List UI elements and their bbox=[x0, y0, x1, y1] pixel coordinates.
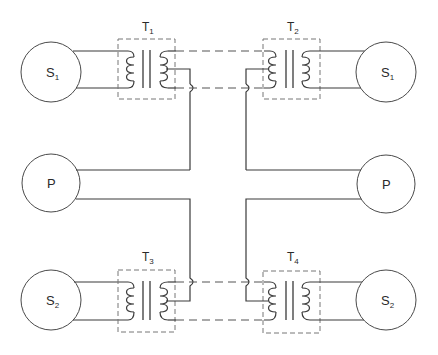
center-tap-wire bbox=[166, 69, 190, 84]
middle-row: P P bbox=[22, 154, 415, 263]
primary-coil-icon bbox=[269, 288, 277, 312]
transformer-t2: T2 bbox=[263, 20, 320, 99]
wire bbox=[246, 199, 362, 263]
transformer-label: T1 bbox=[142, 20, 154, 36]
secondary-coil-icon bbox=[302, 288, 310, 312]
source-label: P bbox=[382, 177, 391, 192]
wire bbox=[76, 199, 190, 263]
top-row: S1 T1 T2 bbox=[21, 20, 416, 170]
center-tap-wire bbox=[246, 69, 268, 84]
source-s1-right: S1 bbox=[356, 42, 416, 102]
coil-lead bbox=[302, 51, 310, 57]
transformer-label: T3 bbox=[142, 250, 154, 266]
source-s2-left: S2 bbox=[21, 270, 81, 330]
coil-lead bbox=[264, 312, 276, 320]
secondary-coil-icon bbox=[302, 57, 310, 81]
coil-lead bbox=[128, 51, 134, 57]
primary-coil-icon bbox=[269, 57, 277, 81]
coil-lead bbox=[160, 51, 168, 57]
transformer-label: T4 bbox=[287, 250, 299, 266]
coil-lead bbox=[264, 81, 276, 88]
coil-lead bbox=[128, 81, 134, 88]
source-p-right: P bbox=[357, 155, 415, 213]
transformer-box bbox=[263, 271, 320, 333]
source-s1-left: S1 bbox=[21, 42, 81, 102]
coil-lead bbox=[264, 282, 276, 288]
secondary-coil-icon bbox=[160, 288, 168, 312]
primary-coil-icon bbox=[127, 57, 135, 81]
coil-lead bbox=[302, 312, 310, 320]
coil-lead bbox=[160, 81, 168, 88]
coil-lead bbox=[264, 51, 276, 57]
source-label: P bbox=[47, 176, 56, 191]
transformer-label: T2 bbox=[287, 20, 299, 36]
coil-lead bbox=[160, 282, 168, 288]
coil-lead bbox=[302, 282, 310, 288]
source-p-left: P bbox=[22, 154, 80, 212]
primary-coil-icon bbox=[127, 288, 135, 312]
coil-lead bbox=[128, 282, 134, 288]
bottom-row: S2 T3 T4 bbox=[21, 250, 416, 333]
transformer-box bbox=[263, 39, 320, 99]
coil-lead bbox=[160, 312, 168, 320]
crossover-wire bbox=[190, 84, 193, 170]
circuit-diagram: S1 T1 T2 bbox=[0, 0, 438, 355]
source-s2-right: S2 bbox=[356, 270, 416, 330]
crossover-wire bbox=[246, 84, 249, 170]
coil-lead bbox=[302, 81, 310, 88]
transformer-t1: T1 bbox=[118, 20, 175, 99]
coil-lead bbox=[128, 312, 134, 320]
